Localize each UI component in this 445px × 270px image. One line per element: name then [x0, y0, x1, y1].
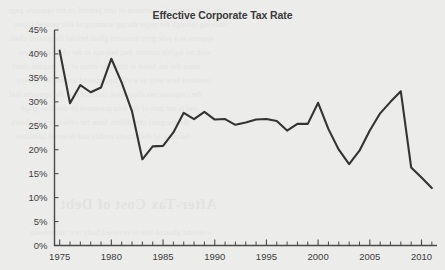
chart-plot-area: 0%5%10%15%20%25%30%35%40%45% 19751980198… — [0, 0, 445, 270]
y-tick-label: 40% — [28, 48, 48, 59]
x-tick-label: 1995 — [256, 251, 277, 262]
x-tick-label: 2010 — [411, 251, 432, 262]
x-axis-minor-tick-marks — [60, 240, 432, 246]
y-tick-label: 15% — [28, 168, 48, 179]
y-tick-label: 45% — [28, 24, 48, 35]
x-tick-label: 2000 — [308, 251, 329, 262]
chart-figure: the faint reversed impression of text pr… — [0, 0, 445, 270]
x-tick-label: 2005 — [359, 251, 380, 262]
x-tick-label: 1990 — [204, 251, 225, 262]
y-tick-label: 20% — [28, 144, 48, 155]
x-tick-label: 1980 — [101, 251, 122, 262]
y-tick-label: 0% — [34, 240, 48, 251]
data-line-effective-corporate-tax-rate — [60, 51, 432, 188]
y-tick-label: 30% — [28, 96, 48, 107]
x-axis-tick-labels: 19751980198519901995200020052010 — [49, 251, 432, 262]
y-axis-tick-labels: 0%5%10%15%20%25%30%35%40%45% — [28, 24, 48, 251]
y-tick-label: 25% — [28, 120, 48, 131]
x-tick-label: 1975 — [49, 251, 70, 262]
y-tick-label: 35% — [28, 72, 48, 83]
y-tick-label: 5% — [34, 216, 48, 227]
y-tick-label: 10% — [28, 192, 48, 203]
x-tick-label: 1985 — [152, 251, 173, 262]
